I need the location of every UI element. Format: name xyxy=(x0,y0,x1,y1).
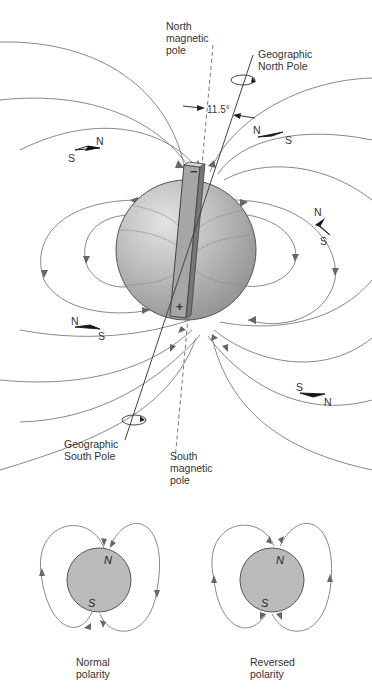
compass-1-n: N xyxy=(96,135,104,147)
normal-polarity-diagram xyxy=(39,523,160,631)
north-magnetic-pole-label: North magnetic pole xyxy=(166,20,209,56)
compass-2-n: N xyxy=(253,124,261,136)
compass-5-n: N xyxy=(324,396,332,408)
south-magnetic-pole-label: South magnetic pole xyxy=(170,450,213,486)
normal-s-label: S xyxy=(88,597,95,609)
reversed-s-label: S xyxy=(261,597,268,609)
compass-4-n: N xyxy=(71,315,79,327)
compass-5-s: S xyxy=(296,381,303,393)
field-lines-graphic xyxy=(0,0,372,692)
reversed-polarity-caption: Reversed polarity xyxy=(250,656,295,680)
compass-4-s: S xyxy=(98,330,105,342)
magnet-negative-sign: − xyxy=(190,166,198,178)
normal-n-label: N xyxy=(104,554,112,566)
magnet-positive-sign: + xyxy=(176,301,183,313)
normal-polarity-caption: Normal polarity xyxy=(76,656,110,680)
reversed-n-label: N xyxy=(276,554,284,566)
compass-3-n: N xyxy=(314,206,322,218)
geographic-north-pole-label: Geographic North Pole xyxy=(258,48,312,72)
magnetic-field-diagram: North magnetic pole Geographic North Pol… xyxy=(0,0,372,692)
compass-2-s: S xyxy=(285,134,292,146)
compass-3-s: S xyxy=(320,235,327,247)
compass-1-s: S xyxy=(68,152,75,164)
tilt-angle-label: 11.5° xyxy=(207,104,230,116)
geographic-south-pole-label: Geographic South Pole xyxy=(64,438,118,462)
reversed-polarity-diagram xyxy=(211,523,333,631)
